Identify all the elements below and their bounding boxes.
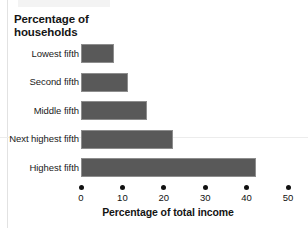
category-label: Highest fifth <box>29 162 79 173</box>
x-axis-tick-label: 10 <box>111 192 133 203</box>
x-axis-tick-marker <box>79 185 84 190</box>
bar <box>81 73 128 92</box>
bar-chart-figure: Percentage of households Lowest fifthSec… <box>0 0 308 228</box>
plot-area: Lowest fifthSecond fifthMiddle fifthNext… <box>0 0 308 228</box>
category-label: Second fifth <box>29 76 79 87</box>
x-axis-tick-marker <box>120 185 125 190</box>
x-axis-tick-marker <box>286 185 291 190</box>
x-axis-tick-label: 50 <box>277 192 299 203</box>
x-axis-tick-label: 20 <box>153 192 175 203</box>
x-axis-title: Percentage of total income <box>0 206 308 218</box>
bar <box>81 158 256 177</box>
bar <box>81 44 114 63</box>
bar <box>81 130 173 149</box>
x-axis-tick-label: 0 <box>70 192 92 203</box>
category-label: Middle fifth <box>34 105 79 116</box>
x-axis-tick-marker <box>161 185 166 190</box>
x-axis-tick-label: 30 <box>194 192 216 203</box>
category-label: Next highest fifth <box>9 133 79 144</box>
x-axis-tick-label: 40 <box>236 192 258 203</box>
x-axis-tick-marker <box>244 185 249 190</box>
x-axis-tick-marker <box>203 185 208 190</box>
category-label: Lowest fifth <box>32 48 79 59</box>
bar <box>81 101 147 120</box>
